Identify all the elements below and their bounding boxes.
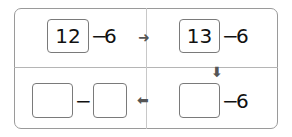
vertical-divider — [146, 8, 147, 129]
arrow-down-icon: ⬇ — [211, 65, 223, 79]
arrow-left-icon: ⬅ — [137, 93, 149, 107]
arrow-right-icon: ➜ — [138, 30, 150, 44]
bottom-left-answer-box-2[interactable] — [93, 83, 127, 118]
top-right-number-box[interactable]: 13 — [179, 19, 220, 53]
bottom-left-minus: − — [75, 91, 92, 111]
bottom-right-answer-box[interactable] — [179, 83, 220, 118]
top-left-number-box[interactable]: 12 — [47, 19, 89, 53]
top-left-operand: 6 — [104, 26, 117, 46]
bottom-left-answer-box-1[interactable] — [32, 83, 73, 118]
bottom-right-operand: 6 — [236, 91, 249, 111]
top-right-operand: 6 — [236, 26, 249, 46]
